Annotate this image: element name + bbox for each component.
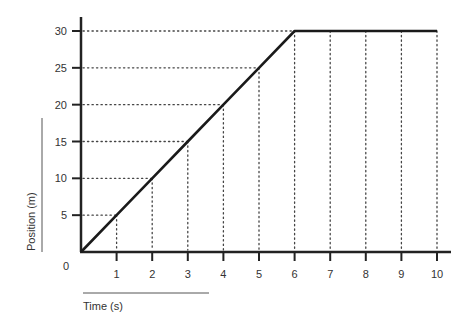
y-tick-label-10: 10 <box>55 172 67 184</box>
x-tick-label-1: 1 <box>114 268 120 280</box>
origin-label: 0 <box>63 260 69 272</box>
dotted-grid <box>83 31 437 250</box>
y-axis-title: Position (m) <box>25 192 37 251</box>
ticks: 5101520253012345678910 <box>55 25 443 280</box>
y-tick-label-5: 5 <box>61 209 67 221</box>
position-time-chart: 5101520253012345678910 0 Time (s) Positi… <box>0 0 474 331</box>
x-tick-label-8: 8 <box>363 268 369 280</box>
axes <box>80 17 451 252</box>
x-axis-title: Time (s) <box>83 300 123 312</box>
x-tick-label-6: 6 <box>292 268 298 280</box>
y-tick-label-30: 30 <box>55 25 67 37</box>
y-tick-label-15: 15 <box>55 136 67 148</box>
x-tick-label-7: 7 <box>327 268 333 280</box>
x-tick-label-10: 10 <box>431 268 443 280</box>
x-tick-label-4: 4 <box>220 268 226 280</box>
y-tick-label-20: 20 <box>55 99 67 111</box>
x-tick-label-5: 5 <box>256 268 262 280</box>
x-tick-label-9: 9 <box>398 268 404 280</box>
y-tick-label-25: 25 <box>55 62 67 74</box>
x-tick-label-3: 3 <box>185 268 191 280</box>
x-tick-label-2: 2 <box>149 268 155 280</box>
